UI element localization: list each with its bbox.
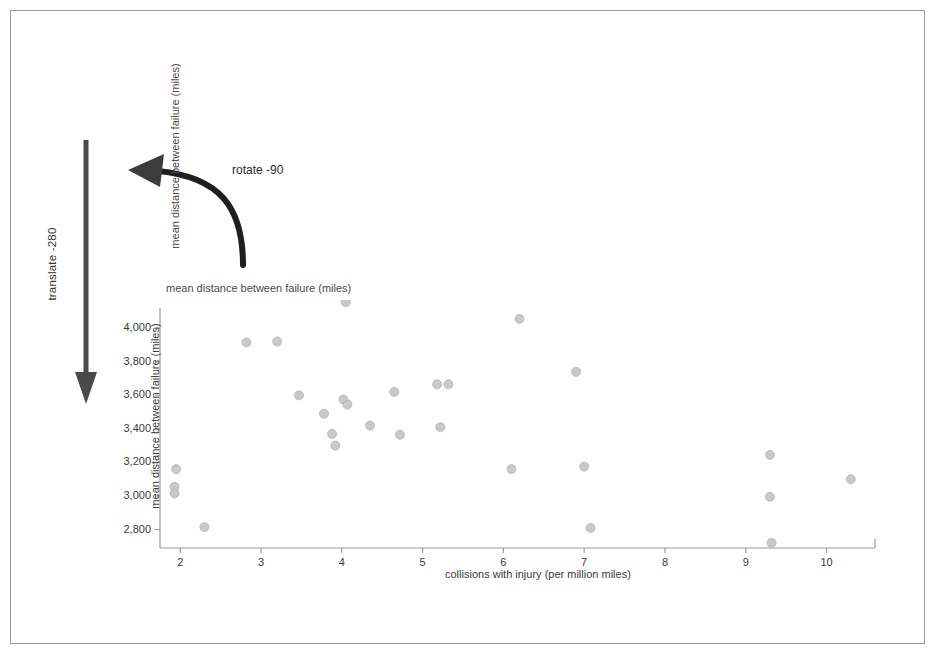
data-point bbox=[765, 450, 774, 459]
data-point bbox=[328, 429, 337, 438]
y-tick-label: 3,400 bbox=[100, 422, 151, 434]
data-point bbox=[395, 430, 404, 439]
data-point bbox=[765, 492, 774, 501]
x-tick-label: 6 bbox=[483, 556, 523, 568]
y-tick-label: 3,800 bbox=[100, 355, 151, 367]
rotate-annotation: rotate -90 bbox=[110, 145, 330, 270]
ghost-vertical-axis-title: mean distance between failure (miles) bbox=[169, 46, 181, 266]
data-point bbox=[436, 423, 445, 432]
data-point bbox=[331, 441, 340, 450]
data-point bbox=[846, 475, 855, 484]
x-tick-label: 3 bbox=[241, 556, 281, 568]
translate-annotation-label: translate -280 bbox=[46, 204, 58, 324]
data-point bbox=[433, 380, 442, 389]
ghost-horizontal-axis-title: mean distance between failure (miles) bbox=[166, 282, 351, 294]
x-tick-label: 9 bbox=[726, 556, 766, 568]
y-tick-label: 4,000 bbox=[100, 321, 151, 333]
down-arrow-icon bbox=[74, 140, 98, 405]
y-tick-label: 3,200 bbox=[100, 455, 151, 467]
y-axis-title: mean distance between failure (miles) bbox=[149, 321, 161, 511]
x-tick-label: 2 bbox=[160, 556, 200, 568]
tick-marks bbox=[155, 328, 827, 553]
x-tick-label: 5 bbox=[403, 556, 443, 568]
x-axis-title: collisions with injury (per million mile… bbox=[445, 568, 631, 580]
data-point bbox=[294, 391, 303, 400]
x-tick-label: 7 bbox=[564, 556, 604, 568]
axis-spines bbox=[160, 308, 875, 548]
y-tick-label: 3,000 bbox=[100, 489, 151, 501]
data-point bbox=[341, 300, 350, 307]
data-point bbox=[580, 462, 589, 471]
data-point bbox=[172, 465, 181, 474]
data-point-group bbox=[170, 300, 855, 547]
page-root: translate -280 rotate -90 mean distance … bbox=[0, 0, 947, 672]
rotate-annotation-label: rotate -90 bbox=[232, 163, 283, 177]
data-point bbox=[390, 387, 399, 396]
data-point bbox=[343, 400, 352, 409]
data-point bbox=[366, 421, 375, 430]
data-point bbox=[320, 409, 329, 418]
translate-annotation: translate -280 bbox=[30, 140, 100, 410]
data-point bbox=[507, 465, 516, 474]
data-point bbox=[242, 338, 251, 347]
data-point bbox=[572, 367, 581, 376]
scatter-chart: 2,8003,0003,2003,4003,6003,8004,000 2345… bbox=[100, 300, 890, 590]
data-point bbox=[200, 523, 209, 532]
data-point bbox=[515, 314, 524, 323]
x-tick-label: 8 bbox=[645, 556, 685, 568]
data-point bbox=[273, 337, 282, 346]
data-point bbox=[444, 380, 453, 389]
x-tick-label: 10 bbox=[807, 556, 847, 568]
data-point bbox=[767, 538, 776, 547]
plot-canvas bbox=[100, 300, 890, 590]
x-tick-label: 4 bbox=[322, 556, 362, 568]
y-tick-label: 3,600 bbox=[100, 388, 151, 400]
data-point bbox=[170, 489, 179, 498]
data-point bbox=[586, 523, 595, 532]
y-tick-label: 2,800 bbox=[100, 523, 151, 535]
